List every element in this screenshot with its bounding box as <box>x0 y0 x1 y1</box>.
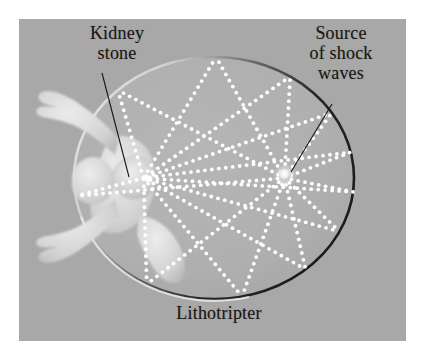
ray-dot <box>317 224 321 228</box>
ray-dot <box>241 180 245 184</box>
ray-dot <box>286 158 290 162</box>
ray-dot <box>171 117 175 121</box>
ray-dot <box>286 113 290 117</box>
ray-dot <box>231 145 235 149</box>
ray-dot <box>206 183 210 187</box>
ray-dot <box>250 206 254 210</box>
ray-dot <box>220 181 224 185</box>
ray-dot <box>198 157 202 161</box>
ray-dot <box>212 216 216 220</box>
ray-dot <box>277 213 281 217</box>
ray-dot <box>214 126 218 130</box>
ray-dot <box>254 255 258 259</box>
ray-dot <box>246 183 250 187</box>
ray-dot <box>178 219 182 223</box>
ray-dot <box>155 180 159 184</box>
ray-dot <box>143 205 147 209</box>
ray-dot <box>80 192 84 196</box>
ray-dot <box>313 205 317 209</box>
ray-dot <box>173 154 177 158</box>
ray-dot <box>164 203 168 207</box>
ray-dot <box>147 175 151 179</box>
ray-dot <box>288 85 292 89</box>
ray-dot <box>231 284 235 288</box>
ray-dot <box>243 233 247 237</box>
ray-dot <box>262 178 266 182</box>
ray-dot <box>196 130 200 134</box>
ray-dot <box>317 183 321 187</box>
ray-dot <box>234 91 238 95</box>
ray-dot <box>224 72 228 76</box>
ray-dot <box>284 215 288 219</box>
ray-dot <box>177 178 181 182</box>
ray-dot <box>160 145 164 149</box>
ray-dot <box>144 261 148 265</box>
ray-dot <box>202 134 206 138</box>
ray-dot <box>143 226 147 230</box>
ray-dot <box>271 185 275 189</box>
ray-dot <box>182 225 186 229</box>
ray-dot <box>221 66 225 70</box>
ray-dot <box>308 200 312 204</box>
ray-dot <box>160 198 164 202</box>
ray-dot <box>310 118 314 122</box>
ray-dot <box>324 119 328 123</box>
ray-dot <box>164 186 168 190</box>
ray-dot <box>151 182 155 186</box>
ray-dot <box>269 177 273 181</box>
ray-dot <box>163 177 167 181</box>
ray-dot <box>297 219 301 223</box>
ray-dot <box>267 247 271 251</box>
ray-dot <box>273 250 277 254</box>
ray-dot <box>199 240 203 244</box>
ray-dot <box>200 209 204 213</box>
ray-dot <box>311 222 315 226</box>
ray-dot <box>143 219 147 223</box>
shock-wave-source <box>276 166 294 184</box>
ray-dot <box>285 257 289 261</box>
ray-dot <box>162 162 166 166</box>
ray-dot <box>194 244 198 248</box>
ray-dot <box>234 180 238 184</box>
ray-dot <box>143 212 147 216</box>
ray-dot <box>205 236 209 240</box>
ray-dot <box>209 195 213 199</box>
ray-dot <box>227 219 231 223</box>
ray-dot <box>171 186 175 190</box>
ray-dot <box>292 261 296 265</box>
ray-dot <box>222 273 226 277</box>
ray-dot <box>182 109 186 113</box>
ray-dot <box>203 168 207 172</box>
ray-dot <box>175 121 179 125</box>
ray-dot <box>303 180 307 184</box>
ray-dot <box>132 142 136 146</box>
ray-dot <box>245 157 249 161</box>
ray-dot <box>224 166 228 170</box>
ray-dot <box>219 122 223 126</box>
ray-dot <box>287 106 291 110</box>
ray-dot <box>144 254 148 258</box>
ray-dot <box>144 240 148 244</box>
ray-dot <box>270 170 274 174</box>
ray-dot <box>315 163 319 167</box>
ray-dot <box>284 148 288 152</box>
ray-dot <box>264 134 268 138</box>
ray-dot <box>168 173 172 177</box>
ray-dot <box>161 270 165 274</box>
ray-dot <box>342 151 346 155</box>
ray-dot <box>247 275 251 279</box>
ray-dot <box>183 124 187 128</box>
ray-dot <box>146 182 150 186</box>
ray-dot <box>203 193 207 197</box>
ray-dot <box>296 179 300 183</box>
ray-dot <box>265 146 269 150</box>
ray-dot <box>210 232 214 236</box>
ray-dot <box>143 188 147 192</box>
ray-dot <box>304 220 308 224</box>
ray-dot <box>194 206 198 210</box>
ray-dot <box>290 125 294 129</box>
ray-dot <box>94 192 98 196</box>
ray-dot <box>169 209 173 213</box>
ray-dot <box>136 155 140 159</box>
ray-dot <box>267 184 271 188</box>
